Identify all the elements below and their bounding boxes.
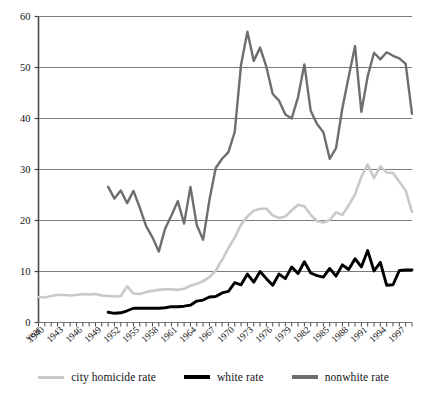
chart-figure: 0102030405060year19401943194619491952195… xyxy=(0,0,427,393)
x-tick-label-1952: 1952 xyxy=(102,324,123,344)
series-line-white-rate xyxy=(108,251,412,314)
chart-legend: city homicide rate white rate nonwhite r… xyxy=(0,366,427,388)
legend-item-city-homicide-rate: city homicide rate xyxy=(38,371,156,383)
x-tick-label-1985: 1985 xyxy=(310,324,331,344)
series-line-nonwhite-rate xyxy=(108,32,412,252)
x-tick-label-1994: 1994 xyxy=(367,324,388,344)
legend-swatch-nonwhite-rate xyxy=(292,375,318,379)
legend-label-city-homicide-rate: city homicide rate xyxy=(71,371,156,383)
legend-swatch-city-homicide-rate xyxy=(38,376,64,379)
x-tick-label-1976: 1976 xyxy=(253,324,274,344)
x-tick-label-1961: 1961 xyxy=(158,324,179,344)
y-tick-label-40: 40 xyxy=(20,113,31,124)
line-chart-plot: 0102030405060year19401943194619491952195… xyxy=(0,0,427,393)
x-tick-label-1943: 1943 xyxy=(45,324,66,344)
y-tick-label-0: 0 xyxy=(25,317,30,328)
y-tick-label-60: 60 xyxy=(20,11,31,22)
x-tick-label-1973: 1973 xyxy=(234,324,255,344)
legend-item-nonwhite-rate: nonwhite rate xyxy=(292,371,389,383)
x-tick-label-1949: 1949 xyxy=(83,324,104,344)
x-tick-label-1967: 1967 xyxy=(196,324,217,344)
y-tick-label-20: 20 xyxy=(20,215,31,226)
x-tick-label-1955: 1955 xyxy=(121,324,142,344)
legend-label-white-rate: white rate xyxy=(217,371,264,383)
legend-swatch-white-rate xyxy=(184,375,210,379)
x-tick-label-1964: 1964 xyxy=(177,324,198,344)
y-tick-label-50: 50 xyxy=(20,62,31,73)
x-tick-label-1982: 1982 xyxy=(291,324,312,344)
legend-item-white-rate: white rate xyxy=(184,371,264,383)
y-tick-label-30: 30 xyxy=(20,164,31,175)
x-tick-label-1988: 1988 xyxy=(329,324,350,344)
series-line-city-homicide-rate xyxy=(39,164,413,297)
x-tick-label-1991: 1991 xyxy=(348,324,369,344)
x-tick-label-1997: 1997 xyxy=(386,324,407,344)
x-tick-label-1946: 1946 xyxy=(64,324,85,344)
x-tick-label-1979: 1979 xyxy=(272,324,293,344)
legend-label-nonwhite-rate: nonwhite rate xyxy=(325,371,389,383)
x-tick-label-1970: 1970 xyxy=(215,324,236,344)
x-tick-label-1958: 1958 xyxy=(139,324,160,344)
y-tick-label-10: 10 xyxy=(20,266,31,277)
